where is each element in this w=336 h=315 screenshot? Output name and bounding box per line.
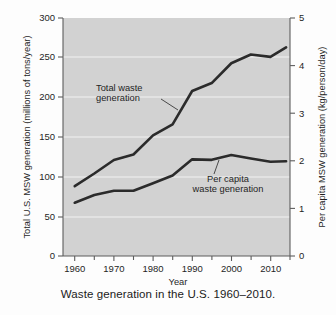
left-tick-label-250: 250 [39,51,55,62]
right-axis-title: Per capita MSW generation (kg/person/day… [317,47,327,228]
left-tick-label-150: 150 [39,131,55,142]
right-tick-label-3: 3 [299,108,304,119]
left-tick-label-300: 300 [39,12,55,23]
per-capita-label-line2: waste generation [192,184,264,194]
x-axis: 1960 1970 1980 1990 2000 2010 Year [63,256,290,287]
total-waste-label-line2: generation [96,93,140,103]
left-tick-label-50: 50 [44,211,55,222]
x-tick-label-1980: 1980 [143,263,164,274]
figure-container: 300 250 200 150 100 50 0 Total U.S. MSW … [0,0,336,315]
x-tick-label-2000: 2000 [221,263,242,274]
figure-caption: Waste generation in the U.S. 1960–2010. [0,288,336,300]
left-axis: 300 250 200 150 100 50 0 Total U.S. MSW … [22,12,63,261]
left-tick-label-200: 200 [39,91,55,102]
left-tick-label-100: 100 [39,171,55,182]
left-axis-title: Total U.S. MSW generation (millions of t… [22,35,32,238]
x-tick-label-1990: 1990 [182,263,203,274]
x-axis-title: Year [169,277,188,287]
x-tick-label-1960: 1960 [64,263,85,274]
right-tick-label-1: 1 [299,203,304,214]
right-tick-label-5: 5 [299,12,304,23]
x-tick-label-2010: 2010 [260,263,281,274]
chart-canvas: 300 250 200 150 100 50 0 Total U.S. MSW … [0,0,336,290]
x-tick-label-1970: 1970 [103,263,124,274]
right-tick-label-2: 2 [299,155,304,166]
per-capita-label-line1: Per capita [207,174,250,184]
total-waste-label-line1: Total waste [96,83,143,93]
right-tick-label-0: 0 [299,250,304,261]
right-tick-label-4: 4 [299,60,304,71]
right-axis: 5 4 3 2 1 0 Per capita MSW generation (k… [290,12,327,261]
left-tick-label-0: 0 [50,250,55,261]
